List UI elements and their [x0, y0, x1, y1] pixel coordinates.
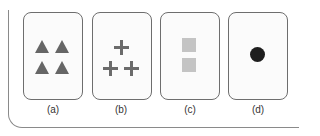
- circle-icon: [250, 47, 265, 62]
- triangle-icon: [55, 61, 69, 74]
- card-c: [160, 12, 220, 100]
- panel-label-d: (d): [238, 104, 278, 115]
- square-icon: [182, 58, 196, 72]
- square-icon: [182, 38, 196, 52]
- triangle-icon: [55, 40, 69, 53]
- triangle-icon: [35, 40, 49, 53]
- plus-icon: [124, 61, 139, 76]
- triangle-icon: [35, 61, 49, 74]
- card-a: [23, 12, 83, 100]
- panel-label-a: (a): [33, 104, 73, 115]
- card-b: [92, 12, 152, 100]
- panel-label-c: (c): [170, 104, 210, 115]
- plus-icon: [103, 61, 118, 76]
- panel-label-b: (b): [101, 104, 141, 115]
- plus-icon: [114, 40, 129, 55]
